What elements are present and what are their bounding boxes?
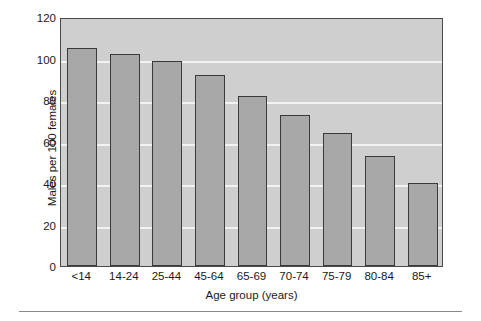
x-axis-tick-label: 75-79 [322,270,351,282]
y-axis-tick-label: 20 [14,220,56,232]
bar [110,54,140,266]
y-axis-tick-label: 120 [14,12,56,24]
x-axis-tick-labels: <1414-2425-4445-6465-6970-7475-7980-8485… [60,270,443,288]
x-axis-title: Age group (years) [60,289,443,301]
x-axis-tick-label: 25-44 [152,270,181,282]
y-axis-tick-label: 0 [14,261,56,273]
bar [238,96,268,266]
bar [280,115,310,266]
y-axis-tick-label: 40 [14,178,56,190]
y-axis-tick-labels: 020406080100120 [14,18,56,267]
bar [323,133,353,266]
x-axis-tick-label: <14 [72,270,92,282]
plot-area [60,18,443,267]
y-axis-tick-label: 80 [14,95,56,107]
x-axis-tick-label: 14-24 [109,270,138,282]
x-axis-tick-label: 80-84 [364,270,393,282]
y-axis-tick-label: 100 [14,54,56,66]
bar [365,156,395,266]
bar-chart-figure: Males per 100 females 020406080100120 <1… [0,0,481,321]
bar [67,48,97,266]
y-axis-tick-label: 60 [14,137,56,149]
x-axis-tick-label: 45-64 [194,270,223,282]
bars-group [61,19,442,266]
bar [195,75,225,266]
bottom-horizontal-rule [19,311,462,312]
bar [152,61,182,266]
x-axis-tick-label: 65-69 [237,270,266,282]
x-axis-tick-label: 85+ [412,270,432,282]
bar [408,183,438,266]
x-axis-tick-label: 70-74 [279,270,308,282]
